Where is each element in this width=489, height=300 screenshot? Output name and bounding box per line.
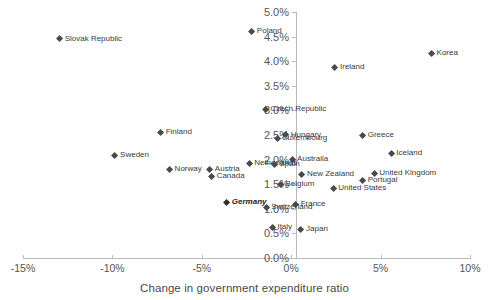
data-point-label: Czech Republic <box>270 105 326 113</box>
y-tick <box>292 86 297 87</box>
diamond-marker-icon <box>206 166 213 173</box>
y-tick <box>292 12 297 13</box>
x-tick <box>23 255 24 259</box>
diamond-marker-icon <box>359 132 366 139</box>
y-tick <box>292 61 297 62</box>
data-point-label: Belgium <box>285 180 314 188</box>
data-point-label: Korea <box>437 49 458 57</box>
data-point-label: Australia <box>297 155 328 163</box>
diamond-marker-icon <box>248 28 255 35</box>
data-point-label: New Zealand <box>307 170 354 178</box>
data-point-label: Japan <box>306 225 328 233</box>
diamond-marker-icon <box>330 184 337 191</box>
data-point-label: Italy <box>277 223 292 231</box>
data-point-label: Finland <box>166 128 192 136</box>
x-tick <box>381 255 382 259</box>
data-point-label: Germany <box>232 198 267 206</box>
y-tick-label: 3.5% <box>264 80 289 92</box>
y-tick-label: 0.0% <box>264 252 289 264</box>
diamond-marker-icon <box>157 129 164 136</box>
data-point-label: Poland <box>257 27 282 35</box>
diamond-marker-icon <box>246 160 253 167</box>
x-tick <box>112 255 113 259</box>
x-tick-label: -15% <box>11 262 36 274</box>
data-point-label: Iceland <box>396 149 422 157</box>
x-tick-label: -5% <box>192 262 211 274</box>
y-tick-label: 4.0% <box>264 55 289 67</box>
diamond-marker-icon <box>331 64 338 71</box>
data-point-label: Luxembourg <box>283 134 327 142</box>
data-point-label: Switzerland <box>271 203 312 211</box>
diamond-marker-icon <box>166 166 173 173</box>
diamond-marker-icon <box>111 152 118 159</box>
data-point-label: Canada <box>217 172 245 180</box>
data-point-label: Slovak Republic <box>65 35 122 43</box>
diamond-marker-icon <box>208 173 215 180</box>
x-axis-line <box>23 258 470 259</box>
data-point-label: United States <box>338 184 386 192</box>
data-point-label: Ireland <box>340 63 364 71</box>
scatter-plot: -15%-10%-5%0%5%10% 0.0%0.5%1.0%1.5%2.0%2… <box>0 0 489 300</box>
diamond-marker-icon <box>223 199 230 206</box>
x-axis-title: Change in government expenditure ratio <box>0 282 489 294</box>
x-tick <box>202 255 203 259</box>
diamond-marker-icon <box>388 150 395 157</box>
diamond-marker-icon <box>297 226 304 233</box>
y-tick <box>292 37 297 38</box>
diamond-marker-icon <box>428 50 435 57</box>
x-tick <box>470 255 471 259</box>
y-tick-label: 5.0% <box>264 6 289 18</box>
data-point-label: Sweden <box>120 151 149 159</box>
y-tick <box>292 233 297 234</box>
data-point-label: Greece <box>368 131 394 139</box>
data-point-label: Spain <box>279 160 299 168</box>
data-point-label: Norway <box>175 165 202 173</box>
x-tick-label: 10% <box>459 262 480 274</box>
y-tick <box>292 258 297 259</box>
diamond-marker-icon <box>298 171 305 178</box>
diamond-marker-icon <box>56 35 63 42</box>
x-tick-label: 5% <box>373 262 388 274</box>
x-tick-label: -10% <box>100 262 125 274</box>
